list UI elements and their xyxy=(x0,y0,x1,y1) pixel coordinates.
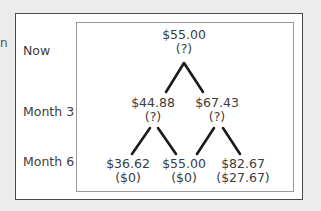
node-price: $82.67 xyxy=(216,157,270,171)
node-value: ($0) xyxy=(106,171,150,185)
node-price: $67.43 xyxy=(195,96,239,110)
node-value: (?) xyxy=(162,42,206,56)
node-value: ($0) xyxy=(162,171,206,185)
node-month6-up-up: $82.67 ($27.67) xyxy=(216,157,270,185)
branch-down-down xyxy=(132,128,150,154)
node-month3-down: $44.88 (?) xyxy=(131,96,175,124)
branch-down-up xyxy=(158,128,176,154)
node-now: $55.00 (?) xyxy=(162,28,206,56)
node-price: $44.88 xyxy=(131,96,175,110)
node-month3-up: $67.43 (?) xyxy=(195,96,239,124)
node-price: $36.62 xyxy=(106,157,150,171)
node-price: $55.00 xyxy=(162,157,206,171)
node-value: (?) xyxy=(131,110,175,124)
branch-up-up xyxy=(223,128,240,154)
branch-root-down xyxy=(166,63,184,92)
branch-up-down xyxy=(197,128,214,154)
node-value: ($27.67) xyxy=(216,171,270,185)
node-month6-down-down: $36.62 ($0) xyxy=(106,157,150,185)
node-price: $55.00 xyxy=(162,28,206,42)
branch-root-up xyxy=(184,63,203,92)
node-month6-middle: $55.00 ($0) xyxy=(162,157,206,185)
node-value: (?) xyxy=(195,110,239,124)
